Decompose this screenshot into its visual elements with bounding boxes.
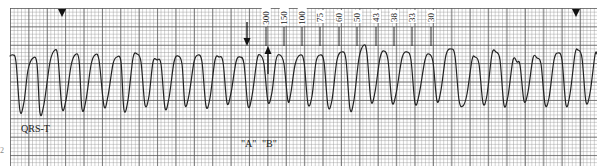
qrs-t-label: QRS-T [21,124,50,134]
edge-mark: 2 [0,146,4,155]
rate-tick-label: 38 [390,10,399,23]
rate-tick-label: 150 [280,7,289,26]
arrow-down-icon [244,38,251,46]
point-a-label: "A" [241,139,256,149]
sync-marker-triangle-icon [572,9,580,17]
rate-tick-label: 100 [298,7,307,26]
rate-tick-label: 75 [316,10,325,23]
rate-scale-ticks [266,27,431,46]
rate-tick-label: 50 [353,10,362,23]
ecg-waveform [10,45,597,116]
arrow-up-icon [265,46,272,54]
rate-tick-label: 33 [408,10,417,23]
rate-tick-label: 300 [262,7,271,26]
sync-marker-triangle-icon [58,9,66,17]
rate-tick-label: 43 [372,10,381,23]
rate-tick-label: 60 [335,10,344,23]
point-b-label: "B" [262,139,277,149]
calipers [244,22,272,74]
rate-tick-label: 30 [427,10,436,23]
